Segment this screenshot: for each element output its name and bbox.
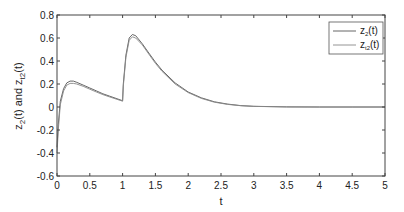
y-tick-label: 0.2 bbox=[40, 79, 54, 90]
x-tick-label: 2.5 bbox=[214, 180, 228, 191]
y-tick-label: 0.4 bbox=[40, 56, 54, 67]
y-tick-label: 0.6 bbox=[40, 33, 54, 44]
y-tick-label: -0.6 bbox=[37, 171, 55, 182]
y-tick-label: 0 bbox=[48, 102, 54, 113]
y-axis-label: z2(t) and zt2(t) bbox=[12, 62, 27, 129]
y-tick-label: -0.4 bbox=[37, 148, 55, 159]
x-tick-label: 0.5 bbox=[83, 180, 97, 191]
legend-label-zt2: zt2(t) bbox=[360, 39, 379, 51]
x-tick-label: 0 bbox=[54, 180, 60, 191]
x-tick-label: 5 bbox=[382, 180, 388, 191]
x-tick-label: 1 bbox=[120, 180, 126, 191]
x-tick-label: 4 bbox=[317, 180, 323, 191]
y-tick-label: -0.2 bbox=[37, 125, 55, 136]
x-tick-label: 3.5 bbox=[280, 180, 294, 191]
legend-label-z2: z2(t) bbox=[360, 25, 378, 37]
x-tick-label: 1.5 bbox=[148, 180, 162, 191]
legend: z2(t) zt2(t) bbox=[329, 22, 383, 54]
x-tick-label: 3 bbox=[251, 180, 257, 191]
y-tick-label: 0.8 bbox=[40, 10, 54, 21]
line-chart: 00.511.522.533.544.55 -0.6-0.4-0.200.20.… bbox=[0, 0, 404, 212]
x-tick-label: 4.5 bbox=[345, 180, 359, 191]
x-axis-label: t bbox=[219, 195, 222, 207]
x-tick-label: 2 bbox=[185, 180, 191, 191]
